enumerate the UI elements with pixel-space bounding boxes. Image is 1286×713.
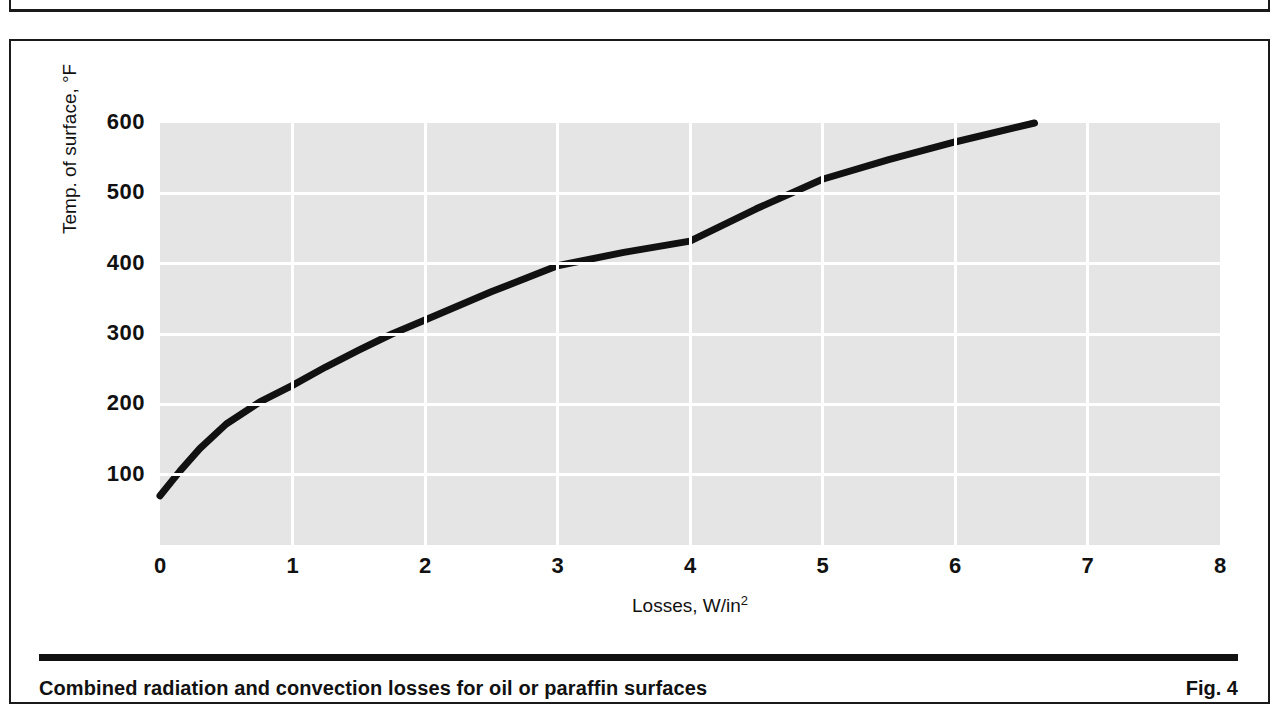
x-tick-label: 6	[935, 553, 975, 579]
x-axis-title: Losses, W/in2	[160, 593, 1220, 617]
figure-number: Fig. 4	[1186, 677, 1238, 700]
gridline-vertical	[689, 123, 692, 545]
gridline-vertical	[424, 123, 427, 545]
y-tick-label: 100	[85, 461, 145, 487]
caption-divider	[39, 654, 1238, 661]
x-axis-title-text: Losses, W/in	[632, 595, 741, 616]
y-tick-label: 300	[85, 320, 145, 346]
figure-panel: Temp. of surface, °F Losses, W/in2 10020…	[9, 39, 1270, 704]
chart-area: Temp. of surface, °F Losses, W/in2 10020…	[11, 41, 1268, 641]
x-tick-label: 0	[140, 553, 180, 579]
previous-panel-bottom-edge	[9, 0, 1270, 12]
x-tick-label: 2	[405, 553, 445, 579]
x-tick-label: 3	[538, 553, 578, 579]
x-tick-label: 5	[803, 553, 843, 579]
gridline-vertical	[821, 123, 824, 545]
y-tick-label: 600	[85, 109, 145, 135]
y-tick-label: 400	[85, 250, 145, 276]
x-tick-label: 7	[1068, 553, 1108, 579]
gridline-vertical	[954, 123, 957, 545]
x-tick-label: 8	[1200, 553, 1240, 579]
gridline-vertical	[291, 123, 294, 545]
y-tick-label: 200	[85, 390, 145, 416]
y-axis-title: Temp. of surface, °F	[59, 64, 81, 234]
y-tick-label: 500	[85, 179, 145, 205]
x-axis-title-superscript: 2	[741, 593, 748, 608]
x-tick-label: 4	[670, 553, 710, 579]
plot-region	[160, 123, 1220, 545]
gridline-vertical	[1086, 123, 1089, 545]
caption-row: Combined radiation and convection losses…	[39, 677, 1238, 700]
x-tick-label: 1	[273, 553, 313, 579]
gridline-vertical	[556, 123, 559, 545]
figure-caption: Combined radiation and convection losses…	[39, 677, 707, 700]
